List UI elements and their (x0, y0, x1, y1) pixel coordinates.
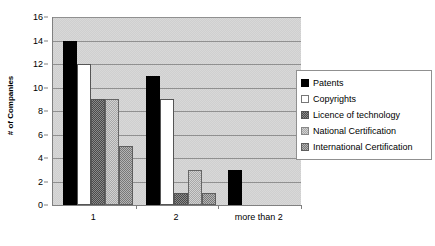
legend: PatentsCopyrightsLicence of technologyNa… (296, 70, 432, 160)
legend-item: International Certification (301, 139, 428, 155)
bar (63, 41, 77, 206)
y-axis-tick-label: 4 (38, 153, 43, 163)
y-axis-tick-mark (44, 205, 48, 206)
x-axis-tick-mark (301, 205, 302, 209)
x-axis-tick-label: more than 2 (235, 212, 283, 222)
y-axis-tick-labels: 0246810121416 (22, 17, 48, 205)
bar (77, 64, 91, 205)
bar (119, 146, 133, 205)
legend-item-label: Patents (313, 78, 344, 88)
y-axis-title: # of Companies (0, 0, 22, 210)
y-axis-tick-mark (44, 111, 48, 112)
x-axis-tick-labels: 12more than 2 (52, 212, 301, 228)
y-axis-tick-label: 8 (38, 106, 43, 116)
y-axis-tick-label: 2 (38, 177, 43, 187)
bar (188, 170, 202, 205)
legend-swatch-icon (301, 127, 309, 135)
legend-item: Licence of technology (301, 107, 428, 123)
y-axis-tick-label: 16 (33, 12, 43, 22)
bar (174, 193, 188, 205)
x-axis-tick-label: 1 (91, 212, 96, 222)
y-axis-tick-mark (44, 181, 48, 182)
y-axis-tick-mark (44, 87, 48, 88)
gridline (53, 17, 301, 18)
y-axis-title-text: # of Companies (7, 75, 16, 135)
bar (228, 170, 242, 205)
gridline (53, 41, 301, 42)
legend-swatch-icon (301, 79, 309, 87)
legend-swatch-icon (301, 95, 309, 103)
bar (105, 99, 119, 205)
y-axis-tick-label: 14 (33, 36, 43, 46)
legend-item-label: International Certification (313, 142, 413, 152)
bar (91, 99, 105, 205)
bar (202, 193, 216, 205)
y-axis-tick-label: 10 (33, 83, 43, 93)
legend-item: Patents (301, 75, 428, 91)
x-axis-tick-mark (218, 205, 219, 209)
bar (160, 99, 174, 205)
bar (146, 76, 160, 205)
bar-chart: # of Companies 0246810121416 12more than… (0, 0, 435, 246)
legend-swatch-icon (301, 143, 309, 151)
legend-item-label: National Certification (313, 126, 396, 136)
y-axis-tick-mark (44, 64, 48, 65)
legend-item-label: Copyrights (313, 94, 356, 104)
y-axis-tick-mark (44, 158, 48, 159)
y-axis-tick-label: 0 (38, 200, 43, 210)
plot-area (52, 17, 301, 206)
x-axis-tick-label: 2 (173, 212, 178, 222)
legend-item: Copyrights (301, 91, 428, 107)
y-axis-tick-mark (44, 40, 48, 41)
y-axis-tick-mark (44, 134, 48, 135)
y-axis-tick-label: 12 (33, 59, 43, 69)
y-axis-tick-label: 6 (38, 130, 43, 140)
y-axis-tick-mark (44, 17, 48, 18)
legend-item-label: Licence of technology (313, 110, 400, 120)
legend-swatch-icon (301, 111, 309, 119)
legend-item: National Certification (301, 123, 428, 139)
x-axis-tick-mark (136, 205, 137, 209)
